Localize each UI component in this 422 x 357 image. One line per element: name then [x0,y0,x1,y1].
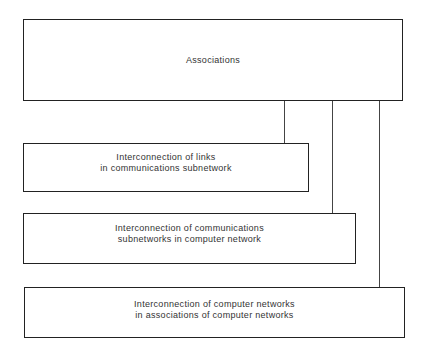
subnetworks-interconnection-box: Interconnection of communications subnet… [23,213,356,264]
subnetworks-interconnection-label: Interconnection of communications subnet… [115,223,264,245]
connector-line-1 [284,100,285,143]
links-interconnection-label: Interconnection of links in communicatio… [100,152,231,174]
networks-interconnection-label: Interconnection of computer networks in … [134,299,295,321]
associations-label: Associations [186,55,240,66]
associations-box: Associations [23,19,403,101]
connector-line-3 [379,100,380,287]
links-interconnection-box: Interconnection of links in communicatio… [23,143,309,192]
networks-interconnection-box: Interconnection of computer networks in … [24,287,405,338]
connector-line-2 [332,100,333,213]
